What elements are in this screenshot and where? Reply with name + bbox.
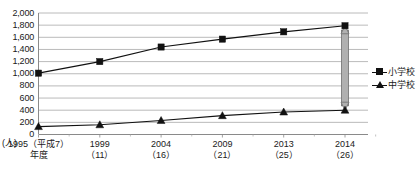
legend-item-2[interactable]: 中学校 (372, 79, 417, 91)
data-point (281, 29, 287, 35)
x-axis-tick-label: 2014（26） (303, 139, 387, 161)
gap-arrow-icon (341, 26, 349, 110)
legend-item-1[interactable]: 小学校 (372, 66, 417, 78)
y-axis-tick-label: 1,800 (0, 21, 34, 30)
series-2 (35, 106, 349, 129)
x-axis-tick-label-year: 2009 (212, 139, 232, 149)
data-point (158, 44, 164, 50)
data-point (35, 70, 41, 76)
series-layer (35, 23, 349, 130)
gridlines (39, 13, 369, 122)
y-axis-tick-label: 200 (0, 118, 34, 127)
data-point (219, 36, 225, 42)
y-axis-tick-label: 600 (0, 94, 34, 103)
annotation-layer (341, 26, 349, 110)
data-point (97, 59, 103, 65)
y-axis-tick-label: 1,200 (0, 57, 34, 66)
y-axis-tick-label: 1,400 (0, 45, 34, 54)
y-axis-tick-label: 2,000 (0, 9, 34, 18)
y-axis-tick-label: 1,600 (0, 33, 34, 42)
triangle-marker-icon (372, 80, 387, 90)
line-chart: 2,0001,8001,6001,4001,2001,0008006004002… (0, 0, 417, 175)
series-line (39, 110, 346, 126)
x-axis-tick-label-year: 2004 (151, 139, 171, 149)
legend-item-label: 中学校 (387, 80, 415, 90)
x-axis-tick-label-year: 1999 (90, 139, 110, 149)
y-axis-tick-label: 1,000 (0, 69, 34, 78)
square-marker-icon (372, 67, 387, 77)
data-point (341, 106, 349, 113)
data-point (342, 23, 348, 29)
legend-item-label: 小学校 (387, 67, 415, 77)
x-axis-tick-label-year: 2013 (274, 139, 294, 149)
x-axis-tick-label-era: （26） (303, 150, 387, 161)
y-axis-tick-label: 400 (0, 106, 34, 115)
x-axis-tick-label-year: 2014 (335, 139, 355, 149)
legend: 小学校中学校 (372, 66, 417, 92)
y-axis-tick-label: 800 (0, 81, 34, 90)
